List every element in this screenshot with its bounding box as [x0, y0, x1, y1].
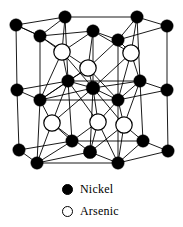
nickel-atom [161, 84, 173, 96]
bond-line [140, 81, 143, 141]
nickel-atom [162, 145, 174, 157]
bond-line [16, 25, 17, 90]
nickel-atom [11, 84, 23, 96]
legend-item-arsenic: Arsenic [0, 200, 183, 222]
bond-line [118, 151, 168, 163]
bond-line [40, 88, 93, 100]
nickel-atom [112, 34, 124, 46]
bond-line [40, 31, 93, 36]
legend-label-nickel: Nickel [80, 183, 113, 196]
filled-circle-icon [62, 184, 73, 195]
crystal-structure-figure: Nickel Arsenic [0, 0, 183, 227]
legend-item-nickel: Nickel [0, 178, 183, 200]
nickel-atom [112, 157, 124, 169]
legend-label-arsenic: Arsenic [80, 205, 119, 218]
open-circle-icon [62, 206, 73, 217]
bond-line [68, 81, 72, 141]
nickel-atom [134, 75, 146, 87]
arsenic-atom [123, 45, 139, 61]
bond-line [118, 90, 167, 100]
nickel-atom [34, 94, 46, 106]
nickel-atom [34, 30, 46, 42]
nickel-atom [87, 25, 99, 37]
nickel-atom [10, 19, 22, 31]
legend: Nickel Arsenic [0, 178, 183, 222]
bond-line [17, 90, 19, 150]
nickel-atom [86, 81, 100, 95]
nickel-atom [62, 75, 74, 87]
bond-line [17, 81, 68, 90]
nickel-atom [131, 11, 143, 23]
arsenic-atom [116, 117, 132, 133]
arsenic-atom [54, 44, 70, 60]
nickel-atom [13, 144, 25, 156]
nickel-atom [83, 145, 96, 158]
nickel-atom [161, 20, 173, 32]
bond-line [16, 17, 65, 25]
nickel-atom [66, 135, 78, 147]
bond-line [37, 100, 40, 163]
arsenic-atom [90, 114, 106, 130]
arsenic-atom [80, 60, 96, 76]
nickel-atom [59, 11, 71, 23]
arsenic-atom [44, 115, 60, 131]
nickel-atom [112, 94, 124, 106]
nickel-atom [31, 157, 43, 169]
nickel-atom [137, 135, 149, 147]
bond-line [118, 26, 167, 40]
bond-line [167, 90, 168, 151]
